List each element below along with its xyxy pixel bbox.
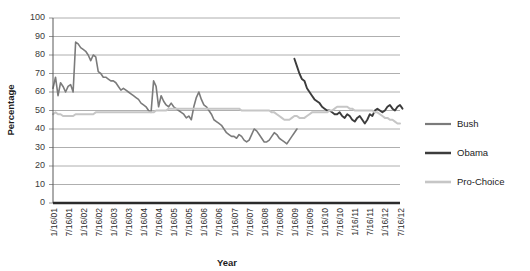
y-axis-tick-label: 40 <box>35 123 45 133</box>
x-axis-tick-label: 7/16/06 <box>214 208 224 237</box>
y-axis-tick-label: 100 <box>30 12 45 22</box>
gridlines-group <box>53 18 400 203</box>
x-axis-tick-label: 7/16/02 <box>94 208 104 237</box>
line-chart: 0102030405060708090100 1/16/017/16/011/1… <box>0 0 530 271</box>
x-axis-tick-label: 1/16/07 <box>230 208 240 237</box>
y-axis-tick-labels: 0102030405060708090100 <box>30 12 53 207</box>
x-axis-tick-label: 1/16/11 <box>350 208 360 236</box>
y-axis-tick-label: 80 <box>35 49 45 59</box>
x-axis-tick-label: 7/16/05 <box>184 208 194 237</box>
series-line-bush <box>53 42 297 144</box>
x-axis-tick-label: 1/16/10 <box>320 208 330 237</box>
legend-label-obama: Obama <box>457 147 489 158</box>
legend-label-pro-choice: Pro-Choice <box>457 176 505 187</box>
y-axis-tick-label: 30 <box>35 142 45 152</box>
y-axis-tick-label: 10 <box>35 179 45 189</box>
x-axis-tick-label: 1/16/12 <box>380 208 390 237</box>
x-axis-tick-label: 7/16/10 <box>335 208 345 237</box>
x-axis-tick-label: 1/16/09 <box>290 208 300 237</box>
plot-series-group <box>53 42 403 144</box>
y-axis-tick-label: 0 <box>40 197 45 207</box>
x-axis-tick-label: 1/16/04 <box>139 208 149 237</box>
x-axis-tick-label: 7/16/01 <box>64 208 74 237</box>
y-axis-tick-label: 20 <box>35 160 45 170</box>
x-axis-tick-label: 1/16/02 <box>79 208 89 237</box>
x-axis-title: Year <box>217 257 237 268</box>
y-axis-tick-label: 50 <box>35 105 45 115</box>
x-axis-tick-label: 1/16/06 <box>199 208 209 237</box>
x-axis-tick-labels: 1/16/017/16/011/16/027/16/021/16/037/16/… <box>49 208 406 237</box>
x-axis-tick-label: 7/16/12 <box>396 208 406 237</box>
y-axis-title: Percentage <box>5 84 16 135</box>
x-axis-tick-label: 1/16/05 <box>169 208 179 237</box>
x-axis-tick-label: 7/16/07 <box>245 208 255 237</box>
x-axis-tick-label: 1/16/08 <box>260 208 270 237</box>
chart-container: 0102030405060708090100 1/16/017/16/011/1… <box>0 0 530 271</box>
legend-label-bush: Bush <box>457 118 479 129</box>
x-axis-tick-label: 7/16/08 <box>275 208 285 237</box>
x-axis-tick-label: 7/16/11 <box>365 208 375 236</box>
y-axis-tick-label: 60 <box>35 86 45 96</box>
x-axis-tick-label: 1/16/03 <box>109 208 119 237</box>
x-axis-tick-label: 7/16/04 <box>154 208 164 237</box>
x-axis-tick-label: 7/16/03 <box>124 208 134 237</box>
x-axis-tick-label: 1/16/01 <box>49 208 59 237</box>
legend: BushObamaPro-Choice <box>425 118 505 187</box>
y-axis-tick-label: 90 <box>35 31 45 41</box>
x-axis-tick-label: 7/16/09 <box>305 208 315 237</box>
y-axis-tick-label: 70 <box>35 68 45 78</box>
